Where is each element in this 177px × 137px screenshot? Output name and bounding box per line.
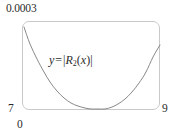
equation-operator: = <box>54 53 63 67</box>
error-curve <box>24 27 160 109</box>
error-bound-chart: 0.0003 y=|R2(x)| 7 0 9 <box>0 0 177 137</box>
remainder-order-subscript: 2 <box>73 59 77 68</box>
abs-bar-close: | <box>90 53 92 67</box>
x-axis-min-label: 0 <box>17 119 23 131</box>
curve-layer <box>0 0 177 137</box>
y-axis-min-label: 7 <box>8 103 14 115</box>
curve-equation-label: y=|R2(x)| <box>49 54 93 66</box>
x-axis-max-label: 9 <box>162 103 168 115</box>
remainder-function-name: R <box>66 53 73 67</box>
